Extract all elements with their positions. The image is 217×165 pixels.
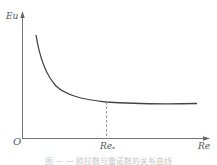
- y-axis-label: Eu: [6, 12, 18, 21]
- y-axis-arrow-icon: [20, 11, 24, 18]
- eu-re-diagram: Eu O Re Re* 图 — — 欧拉数与雷诺数的关系曲线: [0, 0, 217, 165]
- eu-re-curve: [36, 35, 197, 104]
- re-star-label-base: Re: [100, 141, 112, 151]
- re-star-label: Re*: [100, 142, 115, 152]
- figure-caption: 图 — — 欧拉数与雷诺数的关系曲线: [0, 155, 217, 165]
- re-star-label-sub: *: [112, 145, 115, 152]
- origin-label: O: [13, 137, 21, 147]
- x-axis-label: Re: [198, 142, 210, 151]
